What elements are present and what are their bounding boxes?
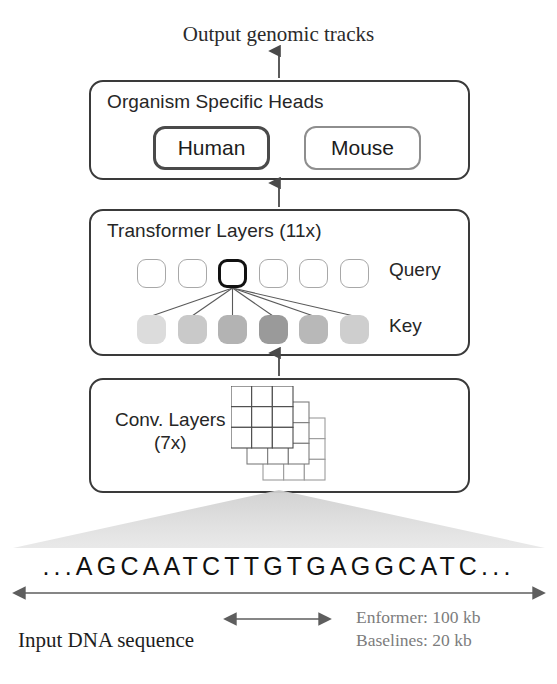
query-cell-3[interactable]	[218, 259, 247, 288]
query-row-label: Query	[389, 259, 441, 281]
transformer-layers-title: Transformer Layers (11x)	[107, 220, 322, 242]
conv-layers-title: Conv. Layers (7x)	[115, 408, 226, 454]
scale-legend-enformer: Enformer: 100 kb	[356, 606, 480, 629]
organism-specific-heads-box: Organism Specific Heads Human Mouse	[89, 80, 470, 180]
query-cell-5[interactable]	[299, 259, 328, 288]
query-cell-1[interactable]	[137, 259, 166, 288]
query-cell-2[interactable]	[178, 259, 207, 288]
conv-feature-map-3	[231, 386, 293, 448]
receptive-field-funnel	[0, 490, 557, 552]
key-cell-2[interactable]	[178, 315, 207, 344]
key-cell-3[interactable]	[218, 315, 247, 344]
attention-line-2	[192, 288, 233, 316]
query-cell-6[interactable]	[340, 259, 369, 288]
key-row-label: Key	[389, 315, 422, 337]
dna-sequence-text: ...AGCAATCTTGTGAGGCATC...	[0, 552, 557, 581]
mouse-head-box[interactable]: Mouse	[304, 126, 421, 170]
key-cell-6[interactable]	[340, 315, 369, 344]
key-cell-5[interactable]	[299, 315, 328, 344]
attention-line-5	[233, 288, 314, 316]
key-cell-4[interactable]	[259, 315, 288, 344]
query-cell-4[interactable]	[259, 259, 288, 288]
enformer-architecture-diagram: Output genomic tracks Organism Specific …	[0, 0, 557, 684]
attention-line-1	[152, 288, 233, 316]
conv-layers-title-line1: Conv. Layers	[115, 408, 226, 431]
scale-legend: Enformer: 100 kb Baselines: 20 kb	[356, 606, 480, 652]
transformer-layers-box: Transformer Layers (11x) Query Key	[89, 209, 470, 356]
conv-feature-map-stack	[231, 386, 361, 491]
attention-line-4	[233, 288, 274, 316]
scale-legend-baselines: Baselines: 20 kb	[356, 629, 480, 652]
human-head-box[interactable]: Human	[153, 126, 270, 170]
conv-layers-box: Conv. Layers (7x)	[89, 378, 470, 493]
attention-line-6	[233, 288, 355, 316]
key-cell-1[interactable]	[137, 315, 166, 344]
organism-specific-heads-title: Organism Specific Heads	[107, 91, 324, 113]
conv-layers-title-line2: (7x)	[115, 431, 226, 454]
output-genomic-tracks-label: Output genomic tracks	[0, 22, 557, 47]
input-dna-sequence-label: Input DNA sequence	[18, 628, 194, 653]
